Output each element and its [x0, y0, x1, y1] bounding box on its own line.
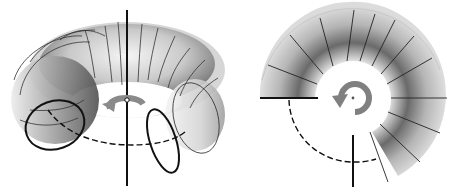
torus-surface	[11, 22, 227, 158]
axis-center-point	[125, 98, 129, 102]
diagram-canvas	[0, 0, 457, 196]
left-panel	[11, 10, 227, 186]
rotation-arrow-icon-right	[332, 84, 369, 112]
figure: Torus generated by revolving a circle ab…	[0, 0, 457, 196]
right-panel	[260, 2, 447, 187]
axis-center-point-right	[352, 97, 355, 100]
